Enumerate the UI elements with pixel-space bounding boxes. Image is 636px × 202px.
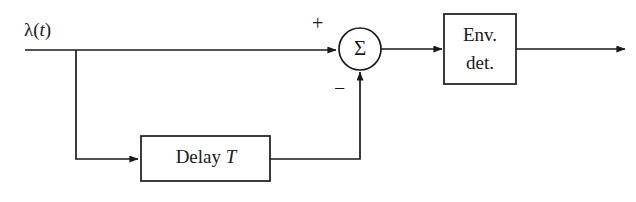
env-det-label-line2: det. [463,53,497,73]
paren-close-glyph: ) [45,19,51,40]
delay-to-sum-feedback-wire [270,72,360,159]
plus-sign-label: + [312,13,323,34]
block-diagram-canvas: λ(t) Σ + − Delay T Env.det. [0,0,636,202]
sigma-symbol: Σ [354,37,366,59]
lambda-glyph: λ [24,19,33,40]
env-det-block-label: Env.det. [463,25,497,73]
input-signal-label: λ(t) [24,20,51,40]
delay-block-label: Delay T [176,147,237,167]
env-det-label-line1: Env. [463,24,497,45]
delay-period-variable: T [226,146,237,167]
branch-to-delay-wire [76,50,138,159]
delay-block-text: Delay [176,146,226,167]
minus-sign-label: − [334,78,345,99]
